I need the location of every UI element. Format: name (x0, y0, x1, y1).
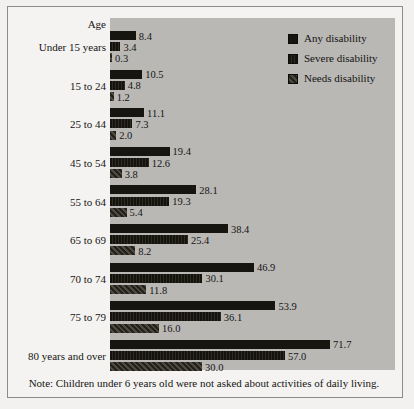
chart-legend: Any disabilitySevere disabilityNeeds dis… (288, 31, 398, 91)
category-label: 70 to 74 (70, 273, 106, 285)
bar-value-label: 2.0 (119, 131, 132, 140)
bar-value-label: 19.3 (172, 197, 190, 206)
bar-0 (110, 340, 330, 349)
category-label: 80 years and over (28, 350, 106, 362)
bar-1 (110, 312, 221, 321)
bar-1 (110, 274, 202, 283)
bar-0 (110, 263, 254, 272)
legend-item[interactable]: Needs disability (288, 71, 398, 91)
legend-swatch-icon (288, 34, 298, 44)
bar-value-label: 30.1 (205, 274, 223, 283)
bar-value-label: 36.1 (224, 313, 242, 322)
bar-value-label: 11.8 (149, 286, 167, 295)
legend-item[interactable]: Any disability (288, 31, 398, 51)
legend-label: Severe disability (304, 51, 378, 66)
bar-2 (110, 246, 135, 255)
bar-value-label: 16.0 (162, 324, 180, 333)
bar-value-label: 5.4 (130, 208, 143, 217)
bar-value-label: 1.2 (117, 93, 130, 102)
bar-0 (110, 185, 196, 194)
category-label: 15 to 24 (70, 80, 106, 92)
bar-value-label: 4.8 (128, 81, 141, 90)
bar-1 (110, 197, 169, 206)
bar-value-label: 8.2 (138, 247, 151, 256)
bar-0 (110, 224, 228, 233)
category-axis: Age Under 15 years15 to 2425 to 4445 to … (12, 18, 106, 370)
bar-0 (110, 301, 275, 310)
legend-swatch-icon (288, 74, 298, 84)
bar-value-label: 71.7 (333, 340, 351, 349)
bar-value-label: 57.0 (288, 352, 306, 361)
bar-1 (110, 351, 285, 360)
bar-value-label: 11.1 (147, 109, 165, 118)
bar-value-label: 3.4 (123, 43, 136, 52)
bar-0 (110, 31, 136, 40)
bar-value-label: 12.6 (152, 159, 170, 168)
figure-root: Age Under 15 years15 to 2425 to 4445 to … (0, 0, 414, 409)
legend-swatch-icon (288, 54, 298, 64)
category-label: 65 to 69 (70, 234, 106, 246)
bar-value-label: 46.9 (257, 263, 275, 272)
legend-label: Any disability (304, 31, 367, 46)
bar-value-label: 0.3 (115, 54, 128, 63)
bar-0 (110, 108, 144, 117)
legend-item[interactable]: Severe disability (288, 51, 398, 71)
bar-0 (110, 147, 170, 156)
bar-2 (110, 53, 112, 62)
bar-1 (110, 119, 132, 128)
axis-header-age: Age (88, 18, 106, 30)
bar-2 (110, 131, 116, 140)
bar-value-label: 3.8 (125, 170, 138, 179)
bar-value-label: 30.0 (205, 363, 223, 372)
bar-1 (110, 42, 120, 51)
category-label: Under 15 years (39, 41, 106, 53)
bar-value-label: 38.4 (231, 225, 249, 234)
bar-value-label: 19.4 (173, 147, 191, 156)
bar-value-label: 28.1 (199, 186, 217, 195)
legend-label: Needs disability (304, 71, 375, 86)
bar-2 (110, 285, 146, 294)
category-label: 55 to 64 (70, 196, 106, 208)
category-label: 45 to 54 (70, 157, 106, 169)
figure-note: Note: Children under 6 years old were no… (14, 376, 394, 390)
category-label: 75 to 79 (70, 311, 106, 323)
bar-2 (110, 92, 114, 101)
category-label: 25 to 44 (70, 118, 106, 130)
bar-2 (110, 362, 202, 371)
bar-1 (110, 81, 125, 90)
bar-value-label: 7.3 (135, 120, 148, 129)
bar-1 (110, 235, 188, 244)
bar-2 (110, 169, 122, 178)
bar-value-label: 25.4 (191, 236, 209, 245)
bar-2 (110, 208, 127, 217)
bar-1 (110, 158, 149, 167)
bar-value-label: 53.9 (278, 302, 296, 311)
bar-0 (110, 70, 142, 79)
bar-value-label: 10.5 (145, 70, 163, 79)
bar-value-label: 8.4 (139, 32, 152, 41)
bar-2 (110, 324, 159, 333)
